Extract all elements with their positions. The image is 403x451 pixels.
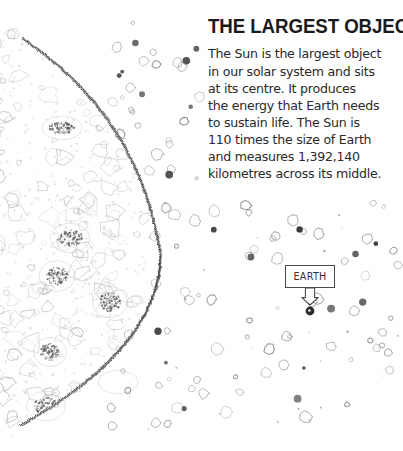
sun-illustration bbox=[0, 28, 162, 436]
earth-callout-label: EARTH bbox=[286, 266, 334, 287]
article-text-column: THE LARGEST OBJECT The Sun is the larges… bbox=[208, 16, 396, 182]
illustration-page: THE LARGEST OBJECT The Sun is the larges… bbox=[0, 0, 403, 451]
earth-callout-arrow bbox=[302, 288, 318, 315]
article-body: The Sun is the largest object in our sol… bbox=[208, 45, 396, 182]
page-title: THE LARGEST OBJECT bbox=[208, 16, 388, 36]
earth-callout-box: EARTH bbox=[285, 265, 335, 288]
